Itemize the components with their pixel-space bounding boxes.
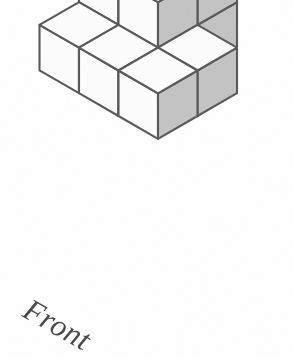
figure-canvas: Front: [0, 0, 293, 359]
cube-group: [40, 0, 238, 139]
